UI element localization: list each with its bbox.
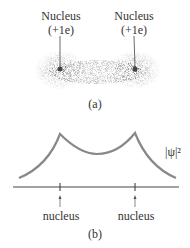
right-nucleus-label: Nucleus xyxy=(111,10,157,23)
right-nucleus-marker: nucleus xyxy=(113,210,159,223)
left-nucleus-label: Nucleus xyxy=(38,10,84,23)
caption-b: (b) xyxy=(80,228,110,241)
right-nucleus-charge: (+1e) xyxy=(111,24,157,37)
caption-a: (a) xyxy=(80,98,110,111)
psi-squared-label: |ψ|² xyxy=(158,146,188,159)
left-nucleus-marker: nucleus xyxy=(38,210,84,223)
left-nucleus-charge: (+1e) xyxy=(38,24,84,37)
right-nucleus-dot xyxy=(133,67,138,72)
electron-cloud xyxy=(34,50,161,90)
left-nucleus-dot xyxy=(58,67,63,72)
probability-curve xyxy=(19,133,176,178)
diagram-canvas xyxy=(0,0,190,248)
